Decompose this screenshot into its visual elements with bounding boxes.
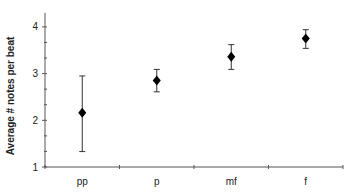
diamond-marker-icon — [302, 34, 310, 44]
x-tick-label: pp — [77, 176, 89, 187]
y-tick-label: 3 — [32, 68, 38, 79]
y-tick-label: 2 — [32, 115, 38, 126]
data-point-pp — [78, 76, 86, 152]
x-tick-label: p — [154, 176, 160, 187]
data-points — [78, 30, 310, 152]
error-bar-chart: 1234pppmff Average # notes per beat — [0, 0, 361, 196]
diamond-marker-icon — [78, 108, 86, 118]
diamond-marker-icon — [153, 76, 161, 86]
x-tick-label: f — [304, 176, 307, 187]
y-axis-title: Average # notes per beat — [5, 36, 16, 155]
axes: 1234pppmff — [32, 13, 343, 187]
data-point-mf — [227, 45, 235, 70]
x-tick-label: mf — [226, 176, 237, 187]
data-point-p — [153, 69, 161, 91]
y-tick-label: 4 — [32, 21, 38, 32]
data-point-f — [302, 30, 310, 49]
y-tick-label: 1 — [32, 162, 38, 173]
diamond-marker-icon — [227, 52, 235, 62]
